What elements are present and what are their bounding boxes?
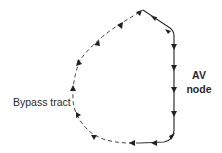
bypass-tract-label: Bypass tract: [13, 96, 71, 108]
av-node-label: AV node: [184, 68, 214, 96]
arrowheads: [70, 10, 177, 146]
bypass-tract-path: [73, 10, 143, 143]
av-node-label-line1: AV: [184, 68, 214, 82]
av-node-label-line2: node: [184, 82, 214, 96]
av-node-path: [140, 36, 174, 143]
reentry-circuit-diagram: Bypass tract AV node: [0, 0, 222, 153]
